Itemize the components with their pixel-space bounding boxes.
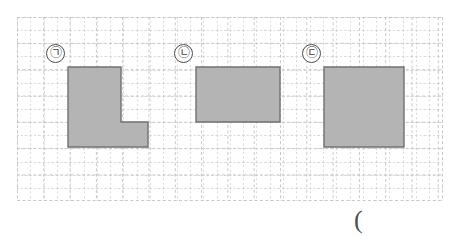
shape-label-c: ㉢ bbox=[302, 44, 321, 63]
shape-label-b: ㉡ bbox=[174, 44, 193, 63]
grid-minor-dots bbox=[17, 17, 443, 201]
answer-open-paren: ( bbox=[354, 207, 363, 233]
figure-stage: ㉠ ㉡ ㉢ ( bbox=[0, 0, 462, 243]
dotted-grid-panel bbox=[17, 17, 443, 201]
grid-major-lines bbox=[17, 17, 443, 201]
shape-label-a: ㉠ bbox=[46, 44, 65, 63]
